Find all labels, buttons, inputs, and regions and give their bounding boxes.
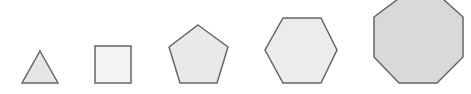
polygon-canvas bbox=[0, 0, 471, 94]
hexagon-shape bbox=[265, 18, 337, 83]
triangle-shape bbox=[22, 51, 58, 83]
polygon-sequence-figure bbox=[0, 0, 471, 94]
square-shape bbox=[95, 46, 131, 83]
pentagon-shape bbox=[169, 25, 228, 83]
octagon-shape bbox=[374, 0, 463, 83]
